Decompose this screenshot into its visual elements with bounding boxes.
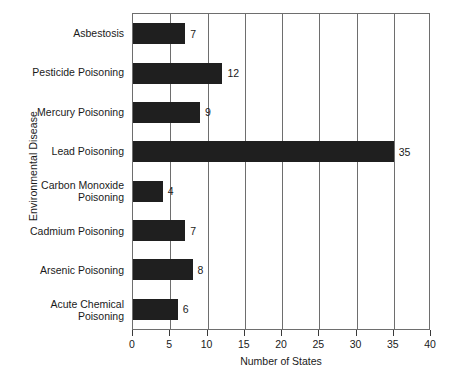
x-axis-tick-label: 20 [275,338,287,350]
x-axis-tick [393,330,394,336]
x-axis-tick-label: 5 [166,338,172,350]
category-label: Acute Chemical Poisoning [18,290,128,330]
bar [133,259,193,280]
bar-chart: Environmental Disease Asbestosis Pestici… [0,0,450,375]
x-axis-tick-label: 15 [238,338,250,350]
bar [133,220,185,241]
plot-area: 7 12 9 35 4 7 [132,13,430,330]
category-label: Carbon Monoxide Poisoning [18,172,128,212]
x-axis-ticks [132,330,430,336]
x-axis-tick [430,330,431,336]
bar-band: 35 [133,132,429,171]
x-axis-tick-label: 25 [312,338,324,350]
bar [133,181,163,202]
x-axis-tick-label: 10 [201,338,213,350]
x-axis-tick-label: 40 [424,338,436,350]
bar-band: 4 [133,172,429,211]
bar-value-label: 35 [399,146,411,158]
x-axis-title: Number of States [132,355,430,367]
bar-band: 6 [133,290,429,329]
bar-band: 7 [133,14,429,53]
bar-value-label: 7 [190,225,196,237]
bar-value-label: 7 [190,28,196,40]
bar-band: 12 [133,53,429,92]
bar [133,141,394,162]
bar [133,63,222,84]
category-label: Mercury Poisoning [18,92,128,132]
x-axis-tick [132,330,133,336]
category-label: Lead Poisoning [18,132,128,172]
x-axis-tick [169,330,170,336]
bar-value-label: 4 [168,185,174,197]
x-axis-tick [356,330,357,336]
category-label: Arsenic Poisoning [18,251,128,291]
bar [133,23,185,44]
bar-band: 9 [133,93,429,132]
category-label-list: Asbestosis Pesticide Poisoning Mercury P… [18,13,128,330]
bar-band: 7 [133,211,429,250]
bar [133,299,178,320]
bar-value-label: 9 [205,106,211,118]
bar-value-label: 12 [227,67,239,79]
x-axis-tick-label: 30 [350,338,362,350]
x-axis-tick [318,330,319,336]
bar-band: 8 [133,250,429,289]
x-axis-tick [207,330,208,336]
x-axis-tick-label: 35 [387,338,399,350]
category-label: Asbestosis [18,13,128,53]
category-label: Pesticide Poisoning [18,53,128,93]
x-axis-tick [244,330,245,336]
x-axis-tick-label: 0 [129,338,135,350]
bar-band-list: 7 12 9 35 4 7 [133,14,429,329]
bar [133,102,200,123]
bar-value-label: 6 [183,303,189,315]
category-label: Cadmium Poisoning [18,211,128,251]
bar-value-label: 8 [198,264,204,276]
x-axis-tick-labels: 0510152025303540 [132,338,430,352]
x-axis-tick [281,330,282,336]
